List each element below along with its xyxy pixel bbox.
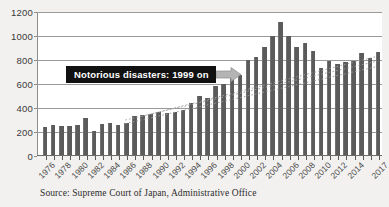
bar — [246, 60, 251, 155]
x-axis-tick-label: 1978 — [53, 160, 74, 181]
bar — [262, 47, 267, 155]
bar — [221, 84, 226, 155]
bar — [335, 64, 340, 155]
y-axis-tick-label: 200 — [17, 127, 33, 138]
x-axis-tick-label: 1998 — [215, 160, 236, 181]
bar — [351, 61, 356, 155]
bar — [197, 96, 202, 155]
y-axis-tick-label: 1000 — [11, 31, 33, 42]
bar — [303, 43, 308, 155]
x-axis-tick-label: 1980 — [69, 160, 90, 181]
y-axis-tick-mark — [34, 132, 37, 133]
bar — [108, 123, 113, 155]
y-axis-tick-mark — [34, 156, 37, 157]
bar — [181, 110, 186, 155]
y-axis-tick-label: 400 — [17, 103, 33, 114]
bar — [254, 57, 259, 155]
bar — [124, 123, 129, 155]
bar-series — [38, 12, 382, 155]
bar — [189, 103, 194, 155]
bar — [173, 112, 178, 155]
right-arrow-icon — [216, 66, 242, 83]
bar — [140, 115, 145, 155]
x-axis-tick-label: 2014 — [345, 160, 366, 181]
x-axis-tick-label: 2012 — [329, 160, 350, 181]
chart-figure: 020040060080010001200 197619781980198219… — [0, 0, 389, 207]
bar — [359, 53, 364, 155]
bar — [132, 116, 137, 155]
bar — [343, 62, 348, 155]
bar — [213, 86, 218, 155]
x-axis-tick-label: 1988 — [134, 160, 155, 181]
bar — [148, 114, 153, 155]
y-axis-tick-label: 0 — [28, 151, 33, 162]
bar — [376, 52, 381, 155]
y-axis-tick-mark — [34, 60, 37, 61]
bar — [311, 51, 316, 155]
annotation-callout: Notorious disasters: 1999 on — [66, 66, 242, 83]
bar — [156, 112, 161, 155]
bar — [230, 78, 235, 155]
y-axis-tick-label: 600 — [17, 79, 33, 90]
bar — [165, 113, 170, 155]
source-caption: Source: Supreme Court of Japan, Administ… — [40, 188, 256, 198]
x-axis-tick-label: 2004 — [264, 160, 285, 181]
y-axis-tick-mark — [34, 84, 37, 85]
bar — [75, 125, 80, 155]
callout-label: Notorious disasters: 1999 on — [66, 66, 216, 83]
bar — [270, 36, 275, 155]
plot-area: 020040060080010001200 — [37, 12, 382, 156]
y-axis-tick-mark — [34, 108, 37, 109]
bar — [294, 47, 299, 155]
bar — [67, 126, 72, 155]
bar — [238, 75, 243, 155]
y-axis-tick-mark — [34, 12, 37, 13]
bar — [319, 68, 324, 155]
bar — [51, 125, 56, 155]
bar — [100, 124, 105, 155]
bar — [286, 36, 291, 155]
bar — [92, 131, 97, 155]
x-axis-tick-label: 1996 — [199, 160, 220, 181]
y-axis-tick-label: 1200 — [11, 7, 33, 18]
bar — [83, 118, 88, 155]
bar — [43, 127, 48, 155]
bar — [278, 22, 283, 155]
bar — [368, 58, 373, 155]
y-axis-tick-mark — [34, 36, 37, 37]
x-axis-tick-label: 2017 — [369, 160, 389, 181]
x-axis-tick-label: 2006 — [280, 160, 301, 181]
x-axis-tick-labels: 1976197819801982198419861988199019921994… — [38, 160, 383, 186]
y-axis-tick-label: 800 — [17, 55, 33, 66]
bar — [205, 98, 210, 155]
bar — [327, 61, 332, 155]
bar — [116, 125, 121, 155]
bar — [59, 126, 64, 155]
